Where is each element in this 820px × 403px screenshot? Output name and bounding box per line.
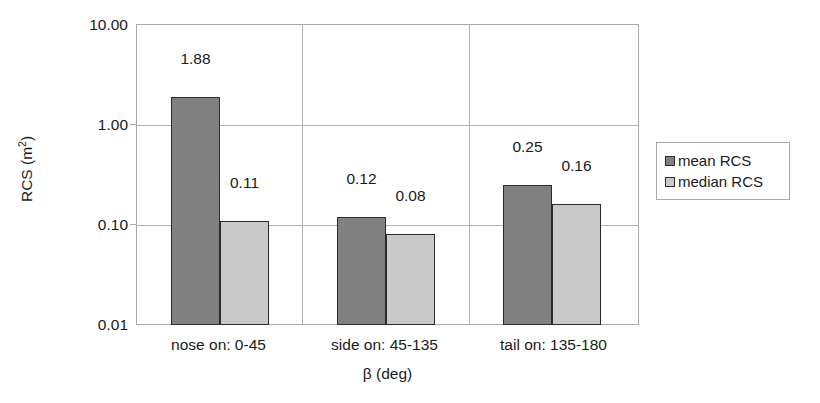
legend-item-median-rcs[interactable]: median RCS: [665, 171, 782, 192]
category-divider-1: [302, 25, 303, 324]
legend-swatch-median-icon: [665, 177, 675, 187]
y-axis-title-base: RCS (m: [18, 147, 35, 202]
legend: mean RCS median RCS: [656, 142, 790, 200]
y-tick-label-10: 10.00: [8, 17, 128, 33]
bar-value-mean-nose-on: 1.88: [161, 51, 230, 67]
legend-swatch-mean-icon: [665, 156, 675, 166]
x-tick-label-side-on: side on: 45-135: [301, 337, 468, 353]
legend-label-median-rcs: median RCS: [678, 174, 763, 189]
bar-median-tail-on[interactable]: [552, 204, 601, 325]
y-tick-label-0-01: 0.01: [8, 317, 128, 333]
y-axis-title: RCS (m2): [18, 79, 36, 259]
bar-value-median-side-on: 0.08: [376, 188, 445, 204]
plot-area: 1.88 0.11 0.12 0.08 0.25 0.16: [136, 24, 639, 325]
bar-value-median-tail-on: 0.16: [542, 158, 611, 174]
x-tick-label-nose-on: nose on: 0-45: [136, 337, 301, 353]
rcs-bar-chart: 10.00 1.00 0.10 0.01 RCS (m2) 1.88 0.11: [0, 0, 820, 403]
bar-value-mean-side-on: 0.12: [327, 171, 396, 187]
bar-mean-side-on[interactable]: [337, 217, 386, 325]
category-divider-2: [469, 25, 470, 324]
bar-median-side-on[interactable]: [386, 234, 435, 325]
legend-label-mean-rcs: mean RCS: [678, 153, 751, 168]
y-axis-title-exponent: 2: [16, 141, 28, 147]
bar-value-mean-tail-on: 0.25: [493, 139, 562, 155]
bar-median-nose-on[interactable]: [220, 221, 269, 325]
x-tick-label-tail-on: tail on: 135-180: [468, 337, 639, 353]
bar-mean-nose-on[interactable]: [171, 97, 220, 325]
legend-item-mean-rcs[interactable]: mean RCS: [665, 150, 782, 171]
y-axis-title-tail: ): [18, 136, 35, 141]
bar-mean-tail-on[interactable]: [503, 185, 552, 325]
bar-value-median-nose-on: 0.11: [210, 175, 279, 191]
x-axis-title: β (deg): [136, 365, 639, 383]
